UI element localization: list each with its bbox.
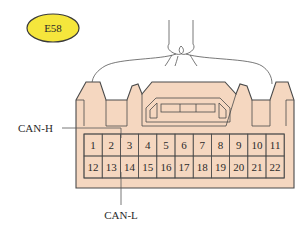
connector-id-badge: E58 bbox=[27, 14, 79, 42]
callout-label-can-l: CAN-L bbox=[104, 209, 138, 221]
pin-number: 2 bbox=[109, 139, 115, 151]
callout-label-can-h: CAN-H bbox=[18, 122, 53, 134]
pin-number: 4 bbox=[145, 139, 151, 151]
pin-number: 22 bbox=[270, 161, 281, 173]
pin-number: 5 bbox=[163, 139, 169, 151]
pin-number: 20 bbox=[233, 161, 245, 173]
pin-number: 7 bbox=[200, 139, 206, 151]
connector-diagram: E58 12345678910111213141516171819202122 bbox=[0, 0, 298, 230]
connector-id: E58 bbox=[44, 22, 62, 34]
pin-number: 19 bbox=[215, 161, 227, 173]
wire-harness bbox=[92, 20, 272, 84]
pin-number: 9 bbox=[236, 139, 242, 151]
pin-number: 11 bbox=[270, 139, 281, 151]
pin-grid: 12345678910111213141516171819202122 bbox=[84, 134, 284, 178]
pin-number: 15 bbox=[142, 161, 154, 173]
pin-number: 14 bbox=[124, 161, 136, 173]
pin-number: 13 bbox=[106, 161, 118, 173]
pin-number: 1 bbox=[90, 139, 96, 151]
pin-number: 17 bbox=[179, 161, 191, 173]
pin-number: 12 bbox=[88, 161, 99, 173]
pin-number: 3 bbox=[127, 139, 133, 151]
pin-number: 21 bbox=[251, 161, 262, 173]
pin-number: 10 bbox=[251, 139, 263, 151]
pin-number: 6 bbox=[181, 139, 187, 151]
pin-number: 16 bbox=[160, 161, 172, 173]
pin-number: 8 bbox=[218, 139, 224, 151]
pin-number: 18 bbox=[197, 161, 209, 173]
